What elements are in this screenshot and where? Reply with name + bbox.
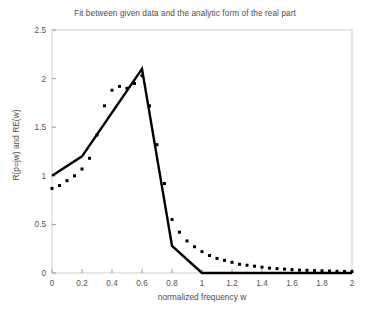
plot-area: 00.511.522.5 00.20.40.60.811.21.41.61.82: [0, 0, 370, 313]
data-point: [261, 266, 264, 269]
data-point: [268, 267, 271, 270]
data-point: [253, 265, 256, 268]
data-point: [216, 257, 219, 260]
x-tick-label: 1.2: [226, 279, 238, 288]
x-tick-label: 1: [200, 279, 205, 288]
x-tick-label: 1.8: [316, 279, 328, 288]
data-point: [58, 184, 61, 187]
series-layer: [51, 69, 354, 273]
data-point: [126, 87, 129, 90]
data-point: [193, 245, 196, 248]
data-point: [223, 259, 226, 262]
y-tick-label: 2: [41, 75, 46, 84]
data-point: [81, 167, 84, 170]
data-point: [313, 269, 316, 272]
data-point: [156, 143, 159, 146]
data-point: [291, 268, 294, 271]
data-point: [88, 157, 91, 160]
data-point: [96, 133, 99, 136]
x-tick-label: 0.6: [136, 279, 148, 288]
x-tick-label: 0.4: [106, 279, 118, 288]
y-tick-label: 2.5: [35, 26, 47, 35]
data-point: [321, 269, 324, 272]
x-tick-label: 1.6: [286, 279, 298, 288]
data-point: [238, 263, 241, 266]
data-point: [73, 174, 76, 177]
data-point: [148, 104, 151, 107]
data-point: [208, 254, 211, 257]
data-point: [103, 104, 106, 107]
data-point: [231, 261, 234, 264]
data-point: [283, 268, 286, 271]
data-point: [298, 269, 301, 272]
y-tick-group: 00.511.522.5: [35, 26, 56, 278]
data-point: [328, 270, 331, 273]
plot-border: [52, 30, 352, 273]
data-point: [343, 270, 346, 273]
data-point: [178, 231, 181, 234]
data-point: [336, 270, 339, 273]
data-point: [111, 89, 114, 92]
data-point: [133, 82, 136, 85]
y-tick-label: 0.5: [35, 220, 47, 229]
y-tick-label: 1.5: [35, 123, 47, 132]
data-point: [66, 179, 69, 182]
series-dotted: [51, 74, 354, 273]
series-solid: [52, 69, 352, 273]
data-point: [246, 264, 249, 267]
data-point: [306, 269, 309, 272]
data-point: [276, 267, 279, 270]
x-tick-label: 1.4: [256, 279, 268, 288]
y-tick-label: 1: [41, 172, 46, 181]
axis-frame: [52, 30, 352, 273]
data-point: [163, 182, 166, 185]
x-tick-label: 0: [50, 279, 55, 288]
data-point: [351, 270, 354, 273]
data-point: [186, 239, 189, 242]
data-point: [141, 74, 144, 77]
x-tick-label: 2: [350, 279, 355, 288]
data-point: [171, 218, 174, 221]
chart-figure: Fit between given data and the analytic …: [0, 0, 370, 313]
y-tick-label: 0: [41, 269, 46, 278]
data-point: [51, 187, 54, 190]
x-tick-label: 0.2: [76, 279, 88, 288]
data-point: [201, 250, 204, 253]
data-point: [118, 85, 121, 88]
x-tick-label: 0.8: [166, 279, 178, 288]
